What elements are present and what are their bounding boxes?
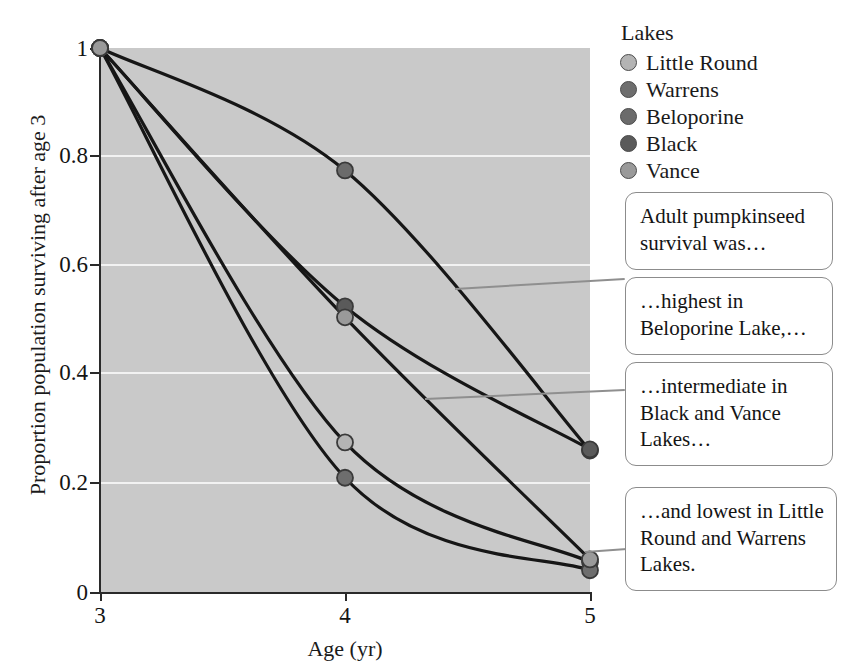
callout-highest-beloporine[interactable]: …highest in Beloporine Lake,… (625, 277, 833, 355)
x-axis-title: Age (yr) (100, 636, 590, 662)
legend-item-warrens[interactable]: Warrens (620, 76, 835, 103)
legend-item-vance[interactable]: Vance (620, 157, 835, 184)
legend-item-beloporine[interactable]: Beloporine (620, 103, 835, 130)
callout-adult-survival[interactable]: Adult pumpkinseed survival was… (625, 192, 833, 270)
legend-title: Lakes (620, 20, 835, 46)
legend-marker-beloporine (620, 108, 637, 125)
x-tick-label-4: 4 (339, 604, 351, 627)
callout-4-line-2: Round and Warrens (640, 525, 824, 552)
gridline-0.2 (100, 482, 590, 484)
x-tick-mark-3 (100, 592, 102, 601)
y-tick-label-0.4: 0.4 (59, 361, 88, 384)
callout-3-line-2: Black and Vance (640, 400, 820, 427)
legend-marker-little-round (620, 54, 637, 71)
callout-lowest-little-round-warrens[interactable]: …and lowest in Little Round and Warrens … (625, 487, 837, 591)
gridline-0.4 (100, 372, 590, 374)
legend-label-beloporine: Beloporine (646, 106, 744, 128)
x-tick-label-3: 3 (94, 604, 106, 627)
y-axis-title: Proportion population surviving after ag… (25, 45, 51, 565)
y-tick-mark-0.2 (90, 482, 100, 484)
legend-marker-vance (620, 162, 637, 179)
callout-3-line-3: Lakes… (640, 426, 820, 453)
callout-4-line-3: Lakes. (640, 551, 824, 578)
legend-marker-warrens (620, 81, 637, 98)
legend-label-black: Black (646, 133, 697, 155)
legend-label-little-round: Little Round (646, 52, 758, 74)
y-tick-mark-0.6 (90, 264, 100, 266)
plot-area (100, 48, 590, 592)
callout-1-line-2: survival was… (640, 230, 820, 257)
y-tick-mark-0 (90, 592, 100, 594)
callout-4-line-1: …and lowest in Little (640, 498, 824, 525)
gridline-0.6 (100, 264, 590, 266)
callout-2-line-2: Beloporine Lake,… (640, 315, 820, 342)
callout-2-line-1: …highest in (640, 288, 820, 315)
legend-label-warrens: Warrens (646, 79, 719, 101)
x-tick-label-5: 5 (584, 604, 596, 627)
y-tick-label-0.6: 0.6 (59, 253, 88, 276)
x-tick-mark-5 (590, 592, 592, 601)
gridline-0.8 (100, 155, 590, 157)
legend-marker-black (620, 135, 637, 152)
y-tick-label-0.8: 0.8 (59, 144, 88, 167)
y-tick-label-1: 1 (77, 37, 89, 60)
legend-label-vance: Vance (646, 160, 700, 182)
x-tick-mark-4 (345, 592, 347, 601)
leader-line-little-round-warrens (585, 548, 627, 553)
y-axis-line (99, 48, 101, 594)
legend-item-little-round[interactable]: Little Round (620, 49, 835, 76)
callout-intermediate-black-vance[interactable]: …intermediate in Black and Vance Lakes… (625, 362, 833, 466)
callout-1-line-1: Adult pumpkinseed (640, 203, 820, 230)
legend: Lakes Little Round Warrens Beloporine Bl… (620, 20, 835, 184)
figure-container: 1 0.8 0.6 0.4 0.2 0 3 4 5 Age (yr) Propo… (0, 0, 843, 666)
y-tick-label-0: 0 (77, 581, 89, 604)
y-tick-mark-0.8 (90, 155, 100, 157)
callout-3-line-1: …intermediate in (640, 373, 820, 400)
y-tick-label-0.2: 0.2 (59, 471, 88, 494)
y-tick-mark-0.4 (90, 372, 100, 374)
y-tick-mark-1 (90, 48, 100, 50)
legend-item-black[interactable]: Black (620, 130, 835, 157)
